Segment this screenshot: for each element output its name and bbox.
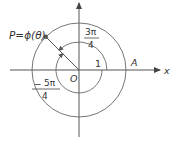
- ray-to-p: [46, 37, 79, 70]
- positive-angle-numerator: 3π: [85, 27, 97, 37]
- x-axis-label: x: [163, 65, 170, 76]
- point-p-label: P=ϕ(θ): [9, 29, 46, 41]
- unit-circle-diagram: P=ϕ(θ) O x A 1 3π 4 − 5π 4: [0, 0, 173, 142]
- positive-angle-denominator: 4: [88, 40, 94, 50]
- origin-label: O: [70, 73, 78, 84]
- negative-angle-numerator: 5π: [44, 78, 56, 88]
- point-a-label: A: [130, 57, 138, 68]
- negative-angle-denominator: 4: [42, 91, 48, 101]
- negative-angle-sign: −: [34, 79, 42, 89]
- radius-label: 1: [95, 58, 101, 69]
